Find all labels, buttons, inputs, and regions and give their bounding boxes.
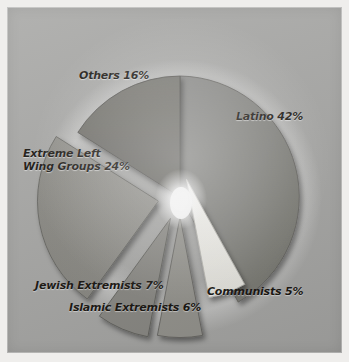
pie-label-islamic-line1: Islamic Extremists 6% (69, 301, 201, 314)
pie-label-extreme-left-line1: Extreme Left (23, 147, 130, 160)
chart-panel: Others 16% Latino 42% Extreme Left Wing … (7, 7, 342, 353)
pie-label-islamic-extremists: Islamic Extremists 6% (69, 301, 201, 314)
pie-label-communists-line1: Communists 5% (207, 285, 303, 298)
pie-chart-stage: Others 16% Latino 42% Extreme Left Wing … (7, 7, 342, 353)
pie-label-others: Others 16% (79, 69, 149, 82)
pie-label-jewish-line1: Jewish Extremists 7% (35, 279, 164, 292)
pie-label-latino-line1: Latino 42% (236, 110, 303, 123)
pie-label-latino: Latino 42% (236, 110, 303, 123)
pie-label-jewish-extremists: Jewish Extremists 7% (35, 279, 164, 292)
chart-screenshot: Others 16% Latino 42% Extreme Left Wing … (0, 0, 349, 362)
pie-label-extreme-left-wing-groups: Extreme Left Wing Groups 24% (23, 147, 130, 173)
pie-label-others-line1: Others 16% (79, 69, 149, 82)
pie-label-extreme-left-line2: Wing Groups 24% (23, 160, 130, 173)
pie-label-communists: Communists 5% (207, 285, 303, 298)
center-highlight (170, 187, 192, 219)
